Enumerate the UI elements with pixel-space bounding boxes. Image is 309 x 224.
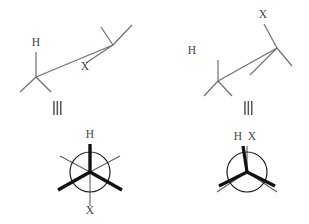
bond-left-methyl-b bbox=[218, 81, 232, 96]
panel-newman-eclipsed: H X bbox=[217, 130, 277, 192]
label-halogen-zigzag-anti: X bbox=[81, 60, 90, 72]
panel-newman-staggered: H X bbox=[58, 128, 122, 216]
panel-zigzag-syn: X H bbox=[188, 8, 292, 96]
front-bond-lower-left bbox=[219, 172, 247, 186]
panel-zigzag-anti: H X bbox=[20, 25, 132, 92]
front-bond-to-hydrogen bbox=[243, 146, 247, 172]
equivalence-bar bbox=[244, 101, 246, 115]
label-halogen-newman-eclipsed: X bbox=[248, 130, 257, 142]
equivalence-bar bbox=[53, 101, 55, 115]
front-bond-lower-left bbox=[58, 172, 90, 190]
bond-chain-main bbox=[218, 48, 277, 81]
bond-chain-main bbox=[36, 45, 113, 77]
equivalence-mark-left bbox=[53, 101, 61, 115]
label-hydrogen-newman-staggered: H bbox=[86, 128, 94, 140]
equivalence-bar bbox=[57, 101, 59, 115]
bond-left-methyl-b bbox=[36, 77, 51, 92]
label-halogen-newman-staggered: X bbox=[86, 204, 95, 216]
label-hydrogen-zigzag-anti: H bbox=[32, 36, 40, 48]
bond-right-methyl-a bbox=[101, 27, 113, 45]
equivalence-bar bbox=[251, 101, 253, 115]
equivalence-bar bbox=[60, 101, 62, 115]
bond-left-methyl-a bbox=[20, 77, 36, 92]
equivalence-mark-right bbox=[244, 101, 252, 115]
label-halogen-zigzag-syn: X bbox=[259, 8, 268, 20]
label-hydrogen-newman-eclipsed: H bbox=[234, 130, 242, 142]
figure-canvas: H X X H bbox=[0, 0, 309, 224]
bond-right-to-halogen bbox=[264, 24, 277, 48]
front-bond-lower-right bbox=[90, 172, 122, 190]
bond-right-methyl-a bbox=[277, 48, 292, 66]
chemistry-figure: H X X H bbox=[0, 0, 309, 224]
label-hydrogen-zigzag-syn: H bbox=[188, 44, 196, 56]
bond-right-methyl-b bbox=[113, 25, 132, 45]
front-bond-lower-right bbox=[247, 172, 275, 186]
equivalence-bar bbox=[248, 101, 250, 115]
bond-left-methyl-a bbox=[204, 81, 218, 96]
